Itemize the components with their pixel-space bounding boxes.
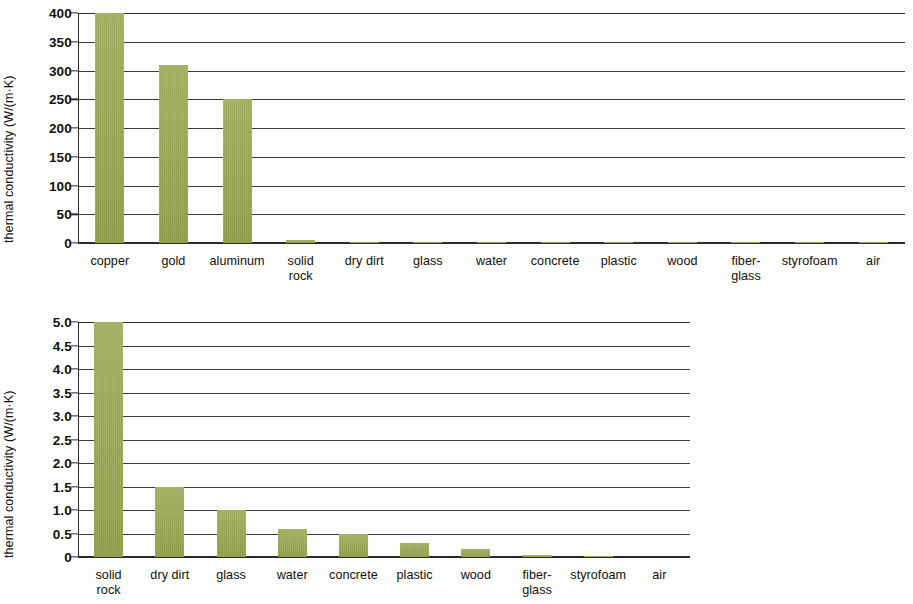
x-tick-label: water — [476, 254, 507, 269]
y-tick-label: 350 — [28, 34, 72, 49]
x-tick-label: water — [277, 568, 308, 583]
x-tick-label: styrofoam — [570, 568, 626, 583]
y-tick-mark — [71, 415, 78, 416]
y-axis-label-bottom: thermal conductivity (W/(m·K) — [2, 328, 16, 558]
bar — [477, 242, 506, 243]
x-tick-label: concrete — [531, 254, 580, 269]
bar — [461, 549, 490, 557]
bar — [155, 487, 184, 558]
y-tick-label: 3.5 — [28, 385, 72, 400]
bar — [541, 242, 570, 243]
bar — [350, 242, 379, 243]
bar — [604, 242, 633, 243]
y-tick-label: 100 — [28, 178, 72, 193]
x-tick-label: dry dirt — [345, 254, 384, 269]
y-tick-mark — [71, 509, 78, 510]
y-tick-label: 4.0 — [28, 362, 72, 377]
plot-area-bottom — [78, 322, 690, 557]
bar — [584, 556, 613, 557]
bar — [278, 529, 307, 557]
x-tick-label: concrete — [329, 568, 378, 583]
y-tick-mark — [71, 242, 78, 243]
figure-page: thermal conductivity (W/(m·K) 0501001502… — [0, 0, 913, 604]
y-tick-label: 1.5 — [28, 479, 72, 494]
y-tick-label: 300 — [28, 63, 72, 78]
y-tick-label: 150 — [28, 149, 72, 164]
y-tick-label: 5.0 — [28, 315, 72, 330]
bar — [286, 240, 315, 243]
y-axis-ticks-top: 050100150200250300350400 — [28, 13, 72, 243]
y-tick-label: 50 — [28, 207, 72, 222]
x-tick-label: fiber- glass — [522, 568, 552, 597]
y-tick-label: 250 — [28, 92, 72, 107]
y-tick-mark — [71, 556, 78, 557]
y-tick-mark — [71, 533, 78, 534]
y-tick-mark — [71, 185, 78, 186]
y-tick-label: 0 — [28, 550, 72, 565]
y-tick-mark — [71, 127, 78, 128]
chart-bottom-thermal-conductivity-zoomed: thermal conductivity (W/(m·K) 00.51.01.5… — [0, 300, 913, 604]
x-tick-label: air — [866, 254, 880, 269]
y-tick-mark — [71, 486, 78, 487]
y-tick-mark — [71, 41, 78, 42]
x-tick-label: plastic — [397, 568, 433, 583]
y-tick-label: 0 — [28, 236, 72, 251]
y-tick-mark — [71, 345, 78, 346]
bar — [223, 99, 252, 243]
y-tick-mark — [71, 214, 78, 215]
bar — [339, 534, 368, 558]
x-tick-label: solid rock — [96, 568, 122, 597]
y-tick-label: 0.5 — [28, 526, 72, 541]
bar — [94, 322, 123, 557]
x-tick-label: aluminum — [210, 254, 265, 269]
x-tick-label: wood — [461, 568, 491, 583]
bar — [400, 543, 429, 557]
x-tick-label: plastic — [601, 254, 637, 269]
bar — [413, 242, 442, 243]
x-tick-label: wood — [667, 254, 697, 269]
bar — [159, 65, 188, 243]
y-axis-label-top: thermal conductivity (W/(m·K) — [2, 18, 16, 243]
y-tick-label: 3.0 — [28, 409, 72, 424]
x-tick-label: dry dirt — [150, 568, 189, 583]
x-tick-label: copper — [90, 254, 129, 269]
y-tick-mark — [71, 368, 78, 369]
x-tick-label: glass — [413, 254, 443, 269]
x-tick-label: glass — [216, 568, 246, 583]
y-axis-line-bottom — [78, 322, 79, 557]
x-tick-label: fiber- glass — [731, 254, 761, 283]
y-tick-mark — [71, 12, 78, 13]
y-tick-mark — [71, 462, 78, 463]
y-axis-line-top — [78, 13, 79, 243]
bar-series-bottom — [78, 322, 690, 557]
y-tick-mark — [71, 392, 78, 393]
bar — [731, 242, 760, 243]
y-tick-mark — [71, 99, 78, 100]
y-tick-mark — [71, 156, 78, 157]
bar — [668, 242, 697, 243]
y-tick-label: 2.0 — [28, 456, 72, 471]
chart-top-thermal-conductivity-full-range: thermal conductivity (W/(m·K) 0501001502… — [0, 0, 913, 300]
bar — [859, 242, 888, 243]
y-tick-label: 200 — [28, 121, 72, 136]
y-tick-mark — [71, 321, 78, 322]
x-tick-label: styrofoam — [782, 254, 838, 269]
bar — [217, 510, 246, 557]
bar — [795, 242, 824, 243]
y-tick-mark — [71, 439, 78, 440]
y-tick-mark — [71, 70, 78, 71]
y-tick-label: 4.5 — [28, 338, 72, 353]
y-axis-ticks-bottom: 00.51.01.52.02.53.03.54.04.55.0 — [28, 322, 72, 557]
bar — [523, 555, 552, 557]
y-tick-label: 1.0 — [28, 503, 72, 518]
x-tick-label: solid rock — [288, 254, 314, 283]
bar-series-top — [78, 13, 905, 243]
y-tick-label: 2.5 — [28, 432, 72, 447]
bar — [95, 13, 124, 243]
plot-area-top — [78, 13, 905, 243]
y-tick-label: 400 — [28, 6, 72, 21]
x-tick-label: gold — [161, 254, 185, 269]
x-tick-label: air — [652, 568, 666, 583]
